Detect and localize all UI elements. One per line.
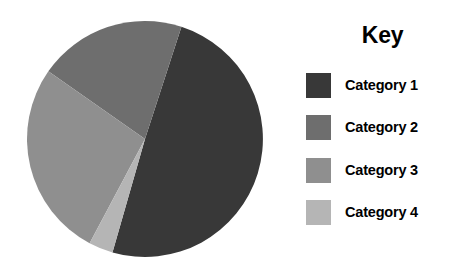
legend-item-category-1[interactable]: Category 1: [306, 72, 474, 98]
pie-slice-group: [27, 21, 263, 257]
legend-item-category-2[interactable]: Category 2: [306, 114, 474, 140]
color-swatch-icon: [306, 158, 331, 183]
chart-legend: Key Category 1 Category 2 Category 3 Cat…: [300, 0, 474, 273]
legend-item-label: Category 2: [345, 119, 418, 135]
color-swatch-icon: [306, 115, 331, 140]
legend-title: Key: [300, 22, 465, 49]
legend-item-category-3[interactable]: Category 3: [306, 157, 474, 183]
color-swatch-icon: [306, 200, 331, 225]
legend-item-category-4[interactable]: Category 4: [306, 199, 474, 225]
legend-item-label: Category 4: [345, 204, 418, 220]
legend-item-label: Category 1: [345, 77, 418, 93]
legend-item-label: Category 3: [345, 162, 418, 178]
pie-chart-svg: [0, 0, 292, 273]
color-swatch-icon: [306, 73, 331, 98]
pie-chart-region: [0, 0, 292, 273]
chart-page: Key Category 1 Category 2 Category 3 Cat…: [0, 0, 474, 273]
